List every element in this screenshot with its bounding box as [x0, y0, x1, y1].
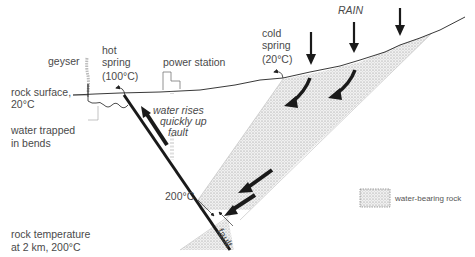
rock-surface-label-2: 20°C — [11, 98, 34, 110]
water-trapped-label-1: water trapped — [11, 124, 75, 136]
rock-surface-label-1: rock surface, — [11, 86, 71, 98]
fault-temp-label: 200°C — [165, 190, 194, 202]
cold-spring-arrow — [274, 72, 283, 78]
cold-spring-label-1: cold — [262, 27, 281, 39]
hot-spring-label-2: spring — [102, 56, 131, 68]
cold-spring-temp: (20°C) — [262, 53, 292, 65]
cold-spring-label-2: spring — [262, 39, 291, 51]
legend-swatch-water-bearing-rock — [360, 189, 390, 207]
power-station-label: power station — [163, 56, 225, 68]
water-bearing-rock-upper — [198, 33, 432, 210]
rock-temperature-label-1: rock temperature — [11, 228, 90, 240]
geyser-label: geyser — [48, 55, 80, 67]
hot-spring-arrow — [116, 88, 125, 96]
water-rises-label-3: fault — [168, 126, 188, 138]
hot-spring-label-1: hot — [102, 44, 117, 56]
legend-label-water-bearing-rock: water-bearing rock — [395, 193, 461, 205]
hot-spring-temp: (100°C) — [102, 70, 138, 82]
geyser-icon — [87, 58, 89, 97]
water-trapped-label-2: in bends — [11, 137, 51, 149]
water-trapped-bends — [88, 97, 128, 108]
rain-label: RAIN — [338, 4, 363, 16]
rock-temperature-label-2: at 2 km, 200°C — [11, 241, 81, 253]
